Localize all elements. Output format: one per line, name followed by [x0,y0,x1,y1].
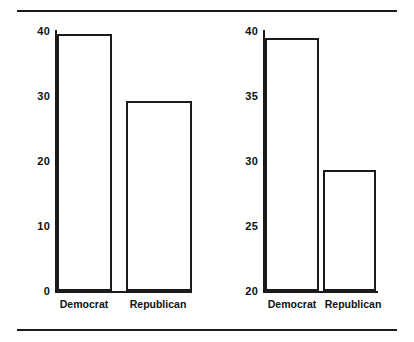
figure-two-bar-charts: (Percent of Respondents) 40 30 20 10 0 D… [0,0,414,342]
y-tick-label: 40 [37,26,50,37]
x-axis-line-left [55,291,192,293]
bar-republican-left [126,101,192,291]
y-tick-label: 0 [44,286,50,297]
x-category-label: Democrat [60,299,108,310]
bar-democrat-right [265,38,319,292]
y-tick-label: 25 [245,221,258,232]
y-tick-label: 10 [37,221,50,232]
bar-republican-right [323,170,376,291]
plot-area-right: 40 35 30 25 20 [265,31,376,291]
y-tick-label: 35 [245,91,258,102]
chart-panel-left: (Percent of Respondents) 40 30 20 10 0 D… [0,0,230,342]
chart-panel-right: 40 35 30 25 20 Democrat Republican [230,0,414,342]
y-tick-label: 30 [245,156,258,167]
x-category-label: Republican [130,299,187,310]
plot-area-left: 40 30 20 10 0 [57,31,190,291]
y-tick-label: 30 [37,91,50,102]
bar-democrat-left [57,34,112,291]
x-axis-line-right [263,291,378,293]
x-category-label: Democrat [268,299,316,310]
y-tick-label: 20 [37,156,50,167]
x-category-label: Republican [325,299,382,310]
y-tick-label: 40 [245,26,258,37]
y-tick-label: 20 [245,286,258,297]
